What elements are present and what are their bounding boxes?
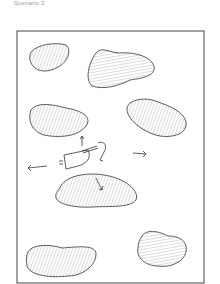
arrow-right-icon [133,151,146,157]
island-bottom-right [138,231,187,266]
island-bottom-left [26,245,96,276]
island-middle-left [30,105,88,137]
island-top-left [30,44,69,71]
boat-figure [59,142,106,169]
arrow-up-icon [80,136,84,146]
island-top-right [88,50,154,88]
arrow-left-icon [28,165,47,171]
island-middle-right [127,99,186,136]
sketch-canvas [0,0,220,284]
